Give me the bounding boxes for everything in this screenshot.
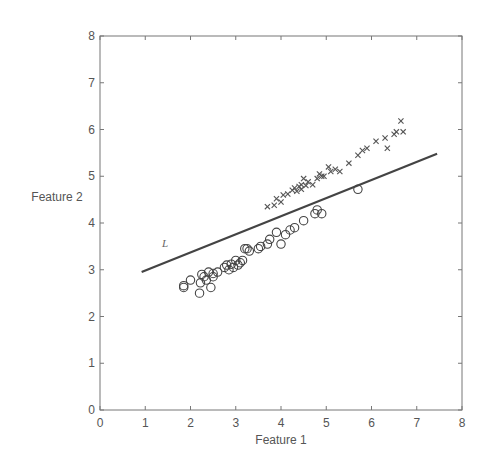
x-marker [299,182,304,187]
x-marker [301,176,306,181]
x-tick-label: 4 [278,416,285,430]
x-marker [385,146,390,151]
y-tick-label: 8 [88,29,95,43]
x-tick-label: 0 [97,416,104,430]
x-marker [355,153,360,158]
y-tick-label: 6 [88,123,95,137]
y-tick-label: 5 [88,169,95,183]
circle-marker [254,245,262,253]
circle-marker [272,228,280,236]
x-axis-label: Feature 1 [255,433,307,447]
x-marker [292,185,297,190]
axis-ticks: 012345678012345678 [88,29,465,430]
y-tick-label: 1 [88,356,95,370]
x-tick-label: 5 [323,416,330,430]
circle-marker [207,283,215,291]
x-marker [394,129,399,134]
circle-marker [195,289,203,297]
x-marker [299,187,304,192]
x-marker [398,118,403,123]
x-marker [272,203,277,208]
x-tick-label: 8 [459,416,466,430]
x-marker [346,161,351,166]
circle-marker [277,240,285,248]
y-tick-label: 0 [88,403,95,417]
x-marker [373,139,378,144]
circle-marker [186,276,194,284]
x-marker [278,199,283,204]
decision-line [142,154,437,272]
x-tick-label: 1 [142,416,149,430]
x-marker [401,129,406,134]
x-marker [274,196,279,201]
x-marker [382,135,387,140]
circle-marker [180,283,188,291]
x-tick-label: 2 [187,416,194,430]
y-tick-label: 3 [88,263,95,277]
x-marker [281,192,286,197]
x-tick-label: 7 [413,416,420,430]
circle-marker [299,216,307,224]
y-axis-label: Feature 2 [31,190,83,204]
x-marker [285,191,290,196]
x-marker [265,204,270,209]
circle-marker [281,230,289,238]
line-label: L [161,237,168,249]
plot-area [100,36,462,410]
y-tick-label: 4 [88,216,95,230]
x-marker [310,182,315,187]
x-tick-label: 3 [232,416,239,430]
y-tick-label: 7 [88,76,95,90]
y-tick-label: 2 [88,310,95,324]
scatter-chart: 012345678012345678 L Feature 1 Feature 2 [0,0,493,466]
x-tick-label: 6 [368,416,375,430]
data-points [180,118,406,297]
